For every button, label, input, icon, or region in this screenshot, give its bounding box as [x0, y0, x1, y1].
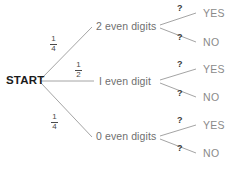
fraction-numerator: 1 [75, 61, 82, 70]
edge-probability-branch-0-leaf-yes: ? [177, 4, 183, 13]
start-node-label: START [6, 75, 44, 87]
leaf-branch-2-yes: YES [203, 120, 225, 131]
fraction-denominator: 4 [51, 123, 58, 132]
edge-probability-branch-1: 1 2 [75, 61, 82, 79]
edge-probability-branch-2-leaf-yes: ? [177, 116, 183, 125]
leaf-branch-1-no: NO [203, 92, 219, 103]
fraction-numerator: 1 [50, 35, 57, 44]
leaf-branch-2-no: NO [203, 148, 219, 159]
edge-root-to-branch-0 [41, 27, 92, 79]
edge-probability-branch-0: 1 4 [50, 35, 57, 53]
edge-probability-branch-1-leaf-no: ? [177, 89, 183, 98]
leaf-branch-0-no: NO [203, 37, 219, 48]
fraction-denominator: 2 [75, 71, 82, 80]
branch-node-1-even-digit: I even digit [99, 76, 151, 87]
fraction-denominator: 4 [50, 45, 57, 54]
edge-probability-branch-1-leaf-yes: ? [177, 60, 183, 69]
edge-branch-1-to-leaf-yes [160, 69, 196, 80]
edge-probability-branch-2-leaf-no: ? [177, 144, 183, 153]
branch-node-2-even-digits: 2 even digits [96, 21, 156, 32]
fraction-numerator: 1 [51, 113, 58, 122]
edge-branch-2-to-leaf-yes [160, 125, 196, 136]
leaf-branch-1-yes: YES [203, 64, 225, 75]
edge-root-to-branch-2 [41, 83, 92, 137]
leaf-branch-0-yes: YES [203, 8, 225, 19]
probability-tree-diagram: START 1 4 1 2 1 4 2 even digits I even d… [0, 0, 239, 172]
edge-probability-branch-2: 1 4 [51, 113, 58, 131]
branch-node-0-even-digits: 0 even digits [96, 131, 156, 142]
edge-branch-0-to-leaf-yes [160, 13, 196, 25]
edge-probability-branch-0-leaf-no: ? [177, 33, 183, 42]
